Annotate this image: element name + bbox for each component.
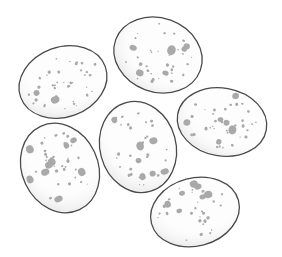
egg-shading	[10, 35, 116, 129]
egg	[172, 81, 272, 164]
egg-shading	[104, 6, 211, 104]
egg	[6, 110, 114, 225]
speckled-eggs-illustration	[0, 0, 282, 257]
egg	[9, 34, 118, 131]
egg-shading	[7, 112, 112, 225]
egg	[103, 5, 213, 105]
